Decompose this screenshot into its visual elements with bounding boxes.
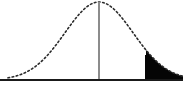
right-tail-shaded-region [146, 50, 183, 80]
normal-curve-svg [0, 0, 183, 104]
normal-curve-figure: Normal distribution curve with shaded ri… [0, 0, 183, 104]
